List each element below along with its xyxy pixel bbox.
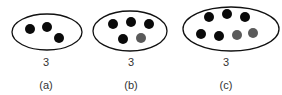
count-b: 3 bbox=[128, 57, 134, 68]
gray-dot bbox=[232, 30, 242, 40]
label-c: (c) bbox=[220, 80, 233, 91]
black-dot bbox=[240, 12, 250, 22]
set-ellipse bbox=[93, 11, 167, 51]
black-dot bbox=[144, 19, 154, 29]
black-dot bbox=[54, 33, 64, 43]
black-dot bbox=[108, 19, 118, 29]
gray-dot bbox=[136, 33, 146, 43]
black-dot bbox=[25, 24, 35, 34]
panel-a bbox=[12, 14, 82, 50]
black-dot bbox=[214, 31, 224, 41]
gray-dot bbox=[248, 28, 258, 38]
black-dot bbox=[204, 12, 214, 22]
label-a: (a) bbox=[39, 80, 52, 91]
black-dot bbox=[126, 17, 136, 27]
panel-c bbox=[183, 7, 279, 51]
count-c: 3 bbox=[223, 57, 229, 68]
black-dot bbox=[42, 22, 52, 32]
black-dot bbox=[118, 34, 128, 44]
count-a: 3 bbox=[43, 57, 49, 68]
label-b: (b) bbox=[124, 80, 137, 91]
panel-b bbox=[93, 11, 167, 51]
black-dot bbox=[196, 29, 206, 39]
black-dot bbox=[222, 9, 232, 19]
